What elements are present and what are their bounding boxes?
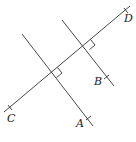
- geometry-diagram: C D A B: [0, 0, 136, 142]
- right-angle-mark-1: [57, 67, 63, 77]
- right-angle-mark-2: [90, 39, 96, 49]
- label-d: D: [123, 12, 133, 25]
- line-a: [22, 34, 93, 126]
- line-b: [62, 20, 114, 86]
- label-b: B: [93, 75, 102, 88]
- line-cd: [4, 6, 130, 112]
- label-c: C: [7, 112, 16, 125]
- label-a: A: [75, 117, 84, 130]
